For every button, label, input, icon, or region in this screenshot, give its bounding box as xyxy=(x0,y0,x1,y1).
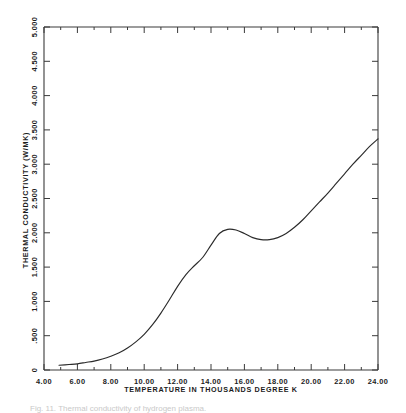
y-tick-label: 1.000 xyxy=(30,291,39,312)
x-tick-label: 4.00 xyxy=(36,377,52,386)
y-tick-label: 1.500 xyxy=(30,257,39,278)
x-tick-label: 24.00 xyxy=(368,377,389,386)
thermal-conductivity-chart: 4.006.008.0010.0012.0014.0016.0018.0020.… xyxy=(0,0,406,413)
y-tick-label: 0 xyxy=(30,368,39,373)
y-tick-label: 2.500 xyxy=(30,188,39,209)
y-tick-label: .500 xyxy=(30,328,39,344)
figure-caption: Fig. 11. Thermal conductivity of hydroge… xyxy=(30,404,206,413)
y-tick-label: 5.000 xyxy=(30,17,39,38)
x-tick-label: 6.00 xyxy=(69,377,85,386)
x-tick-label: 8.00 xyxy=(103,377,119,386)
y-tick-label: 3.500 xyxy=(30,120,39,141)
y-axis-title: THERMAL CONDUCTIVITY (W/MK) xyxy=(21,132,30,268)
y-tick-label: 2.000 xyxy=(30,223,39,244)
x-tick-label: 20.00 xyxy=(301,377,322,386)
figure-container: 4.006.008.0010.0012.0014.0016.0018.0020.… xyxy=(0,0,406,413)
y-tick-label: 3.000 xyxy=(30,154,39,175)
y-tick-label: 4.500 xyxy=(30,51,39,72)
x-tick-label: 22.00 xyxy=(334,377,355,386)
chart-background xyxy=(0,0,406,413)
y-tick-label: 4.000 xyxy=(30,85,39,106)
x-axis-title: TEMPERATURE IN THOUSANDS DEGREE K xyxy=(124,385,298,394)
